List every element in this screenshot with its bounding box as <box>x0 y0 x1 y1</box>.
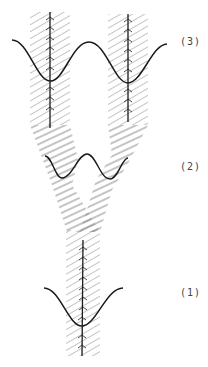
stage-1-label: (1) <box>180 287 201 298</box>
merging-hatched-region <box>30 125 148 232</box>
diagram-canvas <box>0 0 208 367</box>
stage-2-label: (2) <box>180 161 201 172</box>
stage-3-label: (3) <box>180 36 201 47</box>
